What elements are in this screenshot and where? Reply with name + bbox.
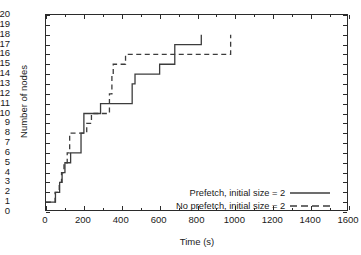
y-tick-label: 3 [0,177,10,187]
series-lines [46,15,349,212]
x-tick-label: 1400 [300,215,321,225]
legend-label-prefetch: Prefetch, initial size = 2 [189,188,285,198]
x-tick-mark [349,15,350,19]
series-line [46,35,231,202]
y-tick-label: 14 [0,68,10,78]
y-tick-label: 15 [0,59,10,69]
x-tick-label: 1200 [262,215,283,225]
series-line [46,35,201,202]
y-tick-label: 0 [0,206,10,216]
x-tick-mark [349,206,350,210]
y-tick-label: 2 [0,187,10,197]
y-tick-label: 5 [0,157,10,167]
y-tick-label: 16 [0,49,10,59]
legend-item: No prefetch, initial size = 2 [176,199,330,212]
y-tick-label: 10 [0,108,10,118]
x-tick-label: 1600 [337,215,358,225]
y-tick-label: 6 [0,147,10,157]
y-tick-label: 17 [0,39,10,49]
legend-key-solid-line [290,188,330,198]
legend-label-no-prefetch: No prefetch, initial size = 2 [176,201,285,211]
chart-legend: Prefetch, initial size = 2 No prefetch, … [176,186,330,212]
y-tick-label: 4 [0,167,10,177]
y-tick-label: 20 [0,9,10,19]
y-tick-label: 13 [0,78,10,88]
x-tick-label: 600 [151,215,167,225]
y-tick-label: 7 [0,137,10,147]
x-tick-label: 800 [189,215,205,225]
y-tick-label: 11 [0,98,10,108]
y-tick-label: 9 [0,118,10,128]
x-tick-label: 0 [42,215,47,225]
y-tick-mark [343,212,347,213]
y-tick-label: 1 [0,196,10,206]
plot-area [45,14,348,211]
legend-key-dashed-line [290,201,330,211]
x-axis-label: Time (s) [45,236,349,247]
y-tick-label: 19 [0,19,10,29]
x-tick-label: 400 [113,215,129,225]
y-axis-label: Number of nodes [18,27,29,177]
x-tick-label: 200 [75,215,91,225]
y-tick-label: 12 [0,88,10,98]
y-tick-label: 8 [0,127,10,137]
legend-item: Prefetch, initial size = 2 [176,186,330,199]
y-tick-mark [46,212,50,213]
chart-figure: Number of nodes Time (s) 012345678910111… [0,0,361,255]
x-tick-label: 1000 [224,215,245,225]
y-tick-label: 18 [0,29,10,39]
